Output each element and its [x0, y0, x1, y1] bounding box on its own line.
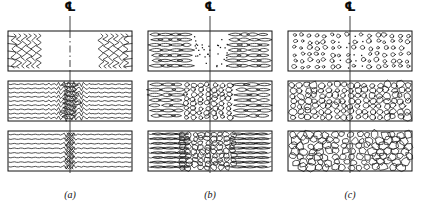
- column-label-c: (c): [344, 189, 355, 200]
- figure-column-c: ℄ (c): [280, 0, 420, 201]
- panels-svg-a: [0, 0, 140, 201]
- panels-svg-b: [140, 0, 280, 201]
- figure-column-a: ℄ (a): [0, 0, 140, 201]
- panels-svg-c: [280, 0, 420, 201]
- column-label-b: (b): [204, 189, 216, 200]
- column-label-a: (a): [64, 189, 76, 200]
- figure-column-b: ℄ (b): [140, 0, 280, 201]
- figure-root: ℄ (a) ℄ (b) ℄ (c): [0, 0, 422, 201]
